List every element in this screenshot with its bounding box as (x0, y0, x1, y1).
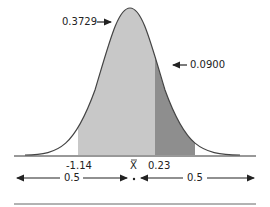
center-dot (133, 178, 135, 180)
normal-curve-diagram (0, 0, 270, 207)
left-half-value: 0.5 (64, 173, 80, 183)
right-half-value: 0.5 (187, 173, 203, 183)
axis-label-right: 0.23 (148, 161, 170, 171)
axis-label-center: X (130, 161, 137, 171)
tail-value-label: 0.0900 (190, 60, 225, 70)
peak-value-label: 0.3729 (62, 17, 97, 27)
axis-label-left: -1.14 (66, 161, 92, 171)
